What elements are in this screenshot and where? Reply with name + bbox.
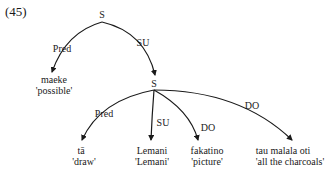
edge-do-charcoals bbox=[154, 90, 292, 140]
leaf-word-fakatino: fakatino bbox=[191, 145, 224, 156]
leaf-word-lemani: Lemani bbox=[137, 145, 168, 156]
edge-su-root bbox=[102, 22, 155, 75]
edge-su-embedded bbox=[151, 90, 154, 140]
leaf-gloss-picture: 'picture' bbox=[191, 156, 222, 167]
leaf-gloss-possible: 'possible' bbox=[36, 85, 72, 96]
leaf-word-maeke: maeke bbox=[41, 74, 67, 85]
edge-label-do-charcoals: DO bbox=[245, 100, 259, 111]
leaf-gloss-all-the-charcoals: 'all the charcoals' bbox=[256, 156, 325, 167]
example-number: (45) bbox=[5, 6, 27, 17]
edge-label-pred-embedded: Pred bbox=[95, 108, 113, 119]
edge-do-fakatino bbox=[154, 90, 198, 140]
leaf-gloss-lemani: 'Lemani' bbox=[135, 156, 169, 167]
embedded-node-s: S bbox=[151, 78, 157, 89]
leaf-word-ta: tā bbox=[77, 145, 84, 156]
edge-label-pred-root: Pred bbox=[53, 43, 71, 54]
edge-label-su-embedded: SU bbox=[157, 117, 170, 128]
edge-pred-embedded bbox=[82, 90, 154, 140]
edge-label-su-root: SU bbox=[137, 37, 150, 48]
leaf-word-tau-malala-oti: tau malala oti bbox=[256, 145, 310, 156]
root-node-s: S bbox=[99, 9, 105, 20]
leaf-gloss-draw: 'draw' bbox=[72, 156, 96, 167]
edge-label-do-fakatino: DO bbox=[201, 122, 215, 133]
